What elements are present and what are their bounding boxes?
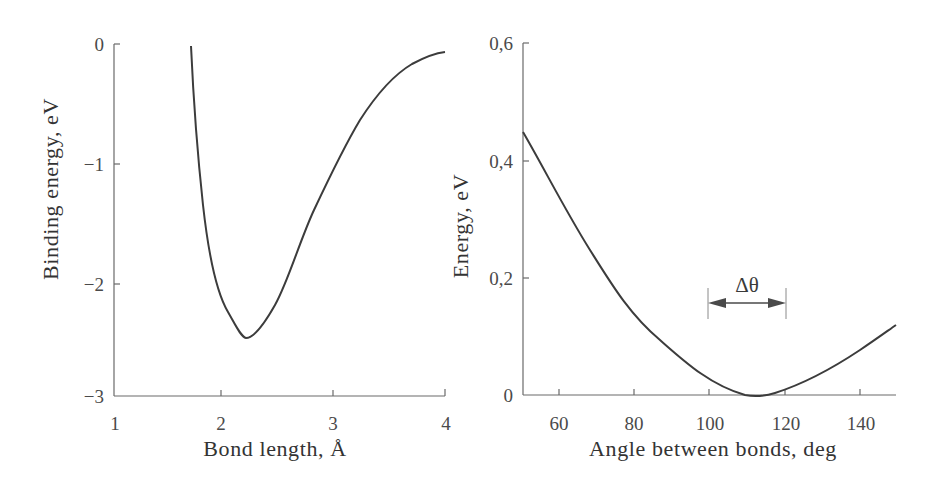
binding-energy-curve: [191, 46, 445, 338]
energy-angle-curve: [523, 132, 896, 396]
right-xtick-80: 80: [625, 413, 644, 434]
left-ytick-1: −1: [84, 154, 104, 175]
right-x-axis-label: Angle between bonds, deg: [589, 436, 837, 461]
left-xtick-4: 4: [441, 413, 451, 434]
right-xtick-120: 120: [772, 413, 801, 434]
right-ytick-0: 0: [504, 385, 514, 406]
left-ytick-3: −3: [84, 386, 104, 407]
right-ytick-0.2: 0,2: [489, 268, 513, 289]
left-xtick-1: 1: [110, 413, 120, 434]
left-ytick-2: −2: [84, 274, 104, 295]
arrow-right-icon: [768, 298, 786, 308]
right-xtick-100: 100: [696, 413, 725, 434]
left-chart: 0 −1 −2 −3 1 2 3 4 Bond length, Å Bindin…: [38, 34, 451, 461]
right-xtick-140: 140: [847, 413, 876, 434]
left-y-axis-label: Binding energy, eV: [38, 98, 63, 280]
left-x-axis-label: Bond length, Å: [203, 436, 346, 461]
left-xtick-2: 2: [216, 413, 226, 434]
right-ytick-0.4: 0,4: [489, 151, 513, 172]
delta-theta-annotation: Δθ: [708, 273, 786, 319]
right-ytick-0.6: 0,6: [489, 33, 513, 54]
arrow-left-icon: [708, 298, 726, 308]
left-ytick-0: 0: [95, 34, 105, 55]
right-xtick-60: 60: [550, 413, 569, 434]
delta-theta-label: Δθ: [735, 273, 759, 297]
right-y-axis-label: Energy, eV: [448, 174, 473, 278]
figure: 0 −1 −2 −3 1 2 3 4 Bond length, Å Bindin…: [0, 0, 933, 482]
right-chart: 0,6 0,4 0,2 0 60 80 100 120 140 Angle be…: [448, 33, 896, 461]
left-xtick-3: 3: [328, 413, 338, 434]
